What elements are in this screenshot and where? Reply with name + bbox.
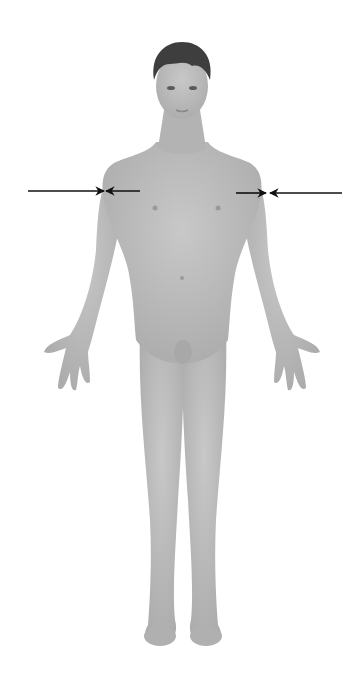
head <box>153 42 210 119</box>
body-figure <box>0 0 364 677</box>
legs <box>140 330 227 643</box>
feet <box>144 626 222 646</box>
anatomy-diagram <box>0 0 364 677</box>
torso <box>103 142 262 363</box>
